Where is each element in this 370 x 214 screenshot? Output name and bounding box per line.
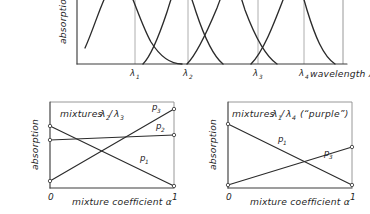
panel-title-prefix: mixtures — [232, 108, 275, 119]
panel-title: mixtures λ 2 / λ 3 — [60, 108, 124, 121]
mixtures-23-svg: mixtures λ 2 / λ 3 absorption mixture co… — [22, 98, 184, 210]
chart-absorption-spectrum: absorption wavelength λ λ 1 λ 2 λ 3 λ 4 — [55, 0, 355, 86]
x-tick-lambda3: λ 3 — [252, 68, 263, 80]
line-label-p1: p 1 — [139, 153, 149, 165]
x-tick-lambda2: λ 2 — [182, 68, 193, 80]
chart-mixtures-lambda2-lambda3: mixtures λ 2 / λ 3 absorption mixture co… — [22, 98, 184, 210]
x-tick-lambda4: λ 4 — [298, 68, 309, 80]
figure-root: absorption wavelength λ λ 1 λ 2 λ 3 λ 4 — [0, 0, 370, 214]
line-p3 — [50, 109, 174, 181]
line-p3 — [228, 147, 352, 185]
x-tick-one: 1 — [172, 192, 178, 202]
chart-mixtures-lambda1-lambda4: mixtures λ 1 / λ 4 (“purple”) absorption… — [200, 98, 365, 210]
line-label-p2: p 2 — [155, 121, 165, 133]
tick-label-lambda2-sub: 2 — [189, 74, 193, 80]
tick-label-lambda3-base: λ — [252, 68, 258, 78]
line-p1 — [50, 126, 174, 186]
tick-label-lambda4-base: λ — [298, 68, 304, 78]
panel-title-separator: / — [108, 108, 113, 119]
endpoint-p3-left — [226, 183, 229, 186]
tick-label-lambda2-base: λ — [182, 68, 188, 78]
endpoint-p1-right — [172, 184, 175, 187]
endpoint-p3-right — [350, 145, 353, 148]
line-label-p3: p 3 — [323, 148, 333, 160]
endpoint-p1-right — [350, 183, 353, 186]
panel-title-suffix: (“purple”) — [300, 108, 349, 119]
line-p1 — [228, 124, 352, 185]
endpoint-p1-left — [48, 124, 51, 127]
x-tick-zero: 0 — [48, 192, 54, 202]
tick-label-lambda1-sub: 1 — [136, 74, 140, 80]
panel-title-lambda-a: λ — [99, 108, 106, 119]
panel-title-prefix: mixtures — [60, 108, 103, 119]
y-axis-label: absorption — [29, 119, 40, 170]
line-label-p2-sub: 2 — [161, 127, 165, 133]
panel-title-lambda-a: λ — [271, 108, 278, 119]
panel-title-lambda-b-sub: 4 — [292, 114, 296, 121]
y-axis-label: absorption — [207, 119, 218, 170]
tick-label-lambda3-sub: 3 — [259, 74, 263, 80]
curve-p2 — [143, 0, 223, 64]
x-axis-label: mixture coefficient α — [72, 196, 172, 207]
line-label-p3-sub: 3 — [157, 108, 161, 114]
y-axis-label: absorption — [57, 0, 68, 44]
x-axis-label: mixture coefficient α — [250, 196, 350, 207]
line-label-p1: p 1 — [277, 134, 287, 146]
line-label-p1-sub: 1 — [145, 159, 149, 165]
absorption-spectrum-svg: absorption wavelength λ λ 1 λ 2 λ 3 λ 4 — [55, 0, 355, 86]
line-label-p3-sub: 3 — [329, 154, 333, 160]
endpoint-p1-left — [226, 122, 229, 125]
x-tick-zero: 0 — [226, 192, 232, 202]
line-p2 — [50, 135, 174, 140]
x-tick-lambda1: λ 1 — [129, 68, 140, 80]
panel-title-lambda-b-sub: 3 — [120, 114, 124, 121]
panel-title-separator: / — [280, 108, 285, 119]
x-tick-one: 1 — [350, 192, 356, 202]
endpoint-p2-left — [48, 138, 51, 141]
curve-p4 — [251, 0, 335, 64]
mixtures-14-svg: mixtures λ 1 / λ 4 (“purple”) absorption… — [200, 98, 365, 210]
line-label-p3: p 3 — [151, 102, 161, 114]
tick-label-lambda4-sub: 4 — [305, 74, 309, 80]
panel-title-lambda-b: λ — [113, 108, 120, 119]
tick-label-lambda1-base: λ — [129, 68, 135, 78]
x-axis-label: wavelength λ — [310, 68, 370, 79]
endpoint-p2-right — [172, 133, 175, 136]
endpoint-p3-left — [48, 179, 51, 182]
panel-title-lambda-b: λ — [285, 108, 292, 119]
curve-p3 — [187, 0, 277, 64]
endpoint-p3-right — [172, 107, 175, 110]
panel-title: mixtures λ 1 / λ 4 (“purple”) — [232, 108, 349, 121]
line-label-p1-sub: 1 — [283, 140, 287, 146]
